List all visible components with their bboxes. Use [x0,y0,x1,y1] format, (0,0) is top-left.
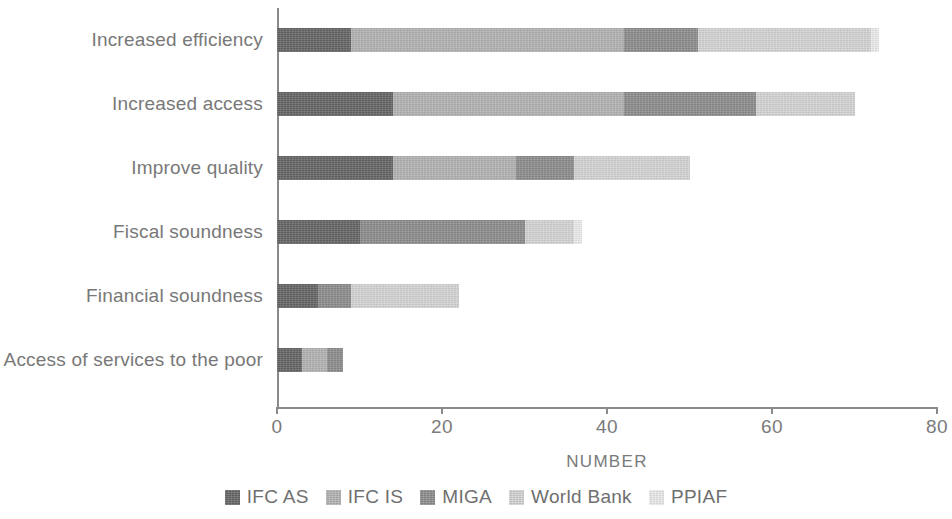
legend-item[interactable]: IFC IS [326,486,404,508]
legend-swatch-ifc-as-icon [225,490,240,505]
legend-label: World Bank [531,486,632,508]
legend-label: IFC IS [348,486,404,508]
bar-row: Improve quality [0,136,952,200]
bar-segment-ppiaf [871,28,879,52]
bar-segment-world-bank [525,220,575,244]
bar-row: Access of services to the poor [0,328,952,392]
x-axis-tick-label: 0 [271,416,282,438]
bar-segment-miga [318,284,351,308]
legend-label: MIGA [442,486,492,508]
x-axis-tick-label: 80 [926,416,948,438]
legend-label: PPIAF [671,486,727,508]
bar-segment-ifc-is [351,28,623,52]
x-axis-tick [771,407,773,414]
stacked-bar [277,92,855,116]
x-axis-title: NUMBER [277,452,937,472]
bar-row: Increased access [0,72,952,136]
bar-segment-ppiaf [574,220,582,244]
bar-segment-ifc-is [302,348,327,372]
stacked-bar [277,348,343,372]
legend-swatch-world-bank-icon [509,490,524,505]
bar-segment-world-bank [574,156,690,180]
legend-item[interactable]: World Bank [509,486,632,508]
bar-segment-miga [327,348,344,372]
x-axis-tick-label: 40 [596,416,618,438]
stacked-bar [277,156,690,180]
bar-segment-ifc-is [393,156,517,180]
bar-segment-world-bank [698,28,871,52]
category-label: Improve quality [131,157,263,179]
bar-segment-world-bank [351,284,458,308]
stacked-bar [277,220,582,244]
category-label: Access of services to the poor [4,349,263,371]
x-axis-tick [276,407,278,414]
bar-segment-miga [624,92,756,116]
legend-item[interactable]: IFC AS [225,486,309,508]
legend-item[interactable]: MIGA [420,486,492,508]
x-axis-tick [606,407,608,414]
bar-segment-ifc-as [277,348,302,372]
x-axis-tick [936,407,938,414]
bar-segment-world-bank [756,92,855,116]
legend-item[interactable]: PPIAF [649,486,727,508]
stacked-bar [277,28,879,52]
category-label: Financial soundness [86,285,263,307]
stacked-bar [277,284,459,308]
bar-row: Financial soundness [0,264,952,328]
category-label: Increased efficiency [91,29,263,51]
stacked-bar-chart: Increased efficiencyIncreased accessImpr… [0,0,952,519]
bar-row: Increased efficiency [0,8,952,72]
bar-segment-ifc-as [277,28,351,52]
bar-segment-miga [516,156,574,180]
bar-row: Fiscal soundness [0,200,952,264]
bar-segment-ifc-as [277,284,318,308]
legend-swatch-ifc-is-icon [326,490,341,505]
legend-swatch-miga-icon [420,490,435,505]
legend-swatch-ppiaf-icon [649,490,664,505]
chart-legend: IFC ASIFC ISMIGAWorld BankPPIAF [0,486,952,508]
category-label: Fiscal soundness [113,221,263,243]
x-axis-tick [441,407,443,414]
x-axis-tick-label: 20 [431,416,453,438]
bar-segment-miga [624,28,698,52]
bar-segment-ifc-as [277,156,393,180]
bar-segment-ifc-as [277,92,393,116]
x-axis-tick-label: 60 [761,416,783,438]
bar-segment-ifc-as [277,220,360,244]
legend-label: IFC AS [247,486,309,508]
category-label: Increased access [112,93,263,115]
bar-segment-miga [360,220,525,244]
bar-segment-ifc-is [393,92,624,116]
